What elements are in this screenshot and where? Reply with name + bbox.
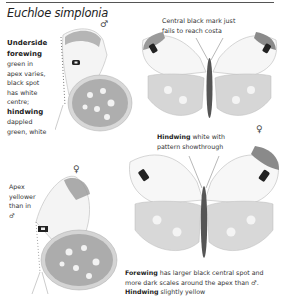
caption-line: green in	[7, 59, 59, 69]
caption-line: apex varies,	[7, 69, 59, 79]
male-upperside-butterfly-illustration	[138, 28, 281, 128]
female-underside-butterfly-illustration	[14, 172, 124, 297]
caption-bold: forewing	[7, 50, 42, 58]
caption-line: green, white	[7, 127, 59, 137]
caption-line: slightly yellow	[158, 288, 205, 295]
caption-line: dappled	[7, 117, 59, 127]
header-rule	[6, 2, 274, 3]
caption-bold: Underside	[7, 39, 47, 47]
caption-bold: Hindwing	[157, 133, 190, 140]
caption-bold: Forewing	[125, 269, 158, 276]
caption-underside: Underside forewing green in apex varies,…	[7, 38, 59, 136]
female-upperside-butterfly-illustration	[127, 142, 281, 266]
male-underside-butterfly-illustration	[55, 25, 135, 140]
caption-line: black spot	[7, 78, 59, 88]
caption-line: Central black mark just	[162, 16, 235, 26]
caption-line: has white	[7, 88, 59, 98]
caption-bold: Hindwing	[125, 288, 158, 295]
caption-line: centre;	[7, 97, 59, 107]
caption-female-forewing: Forewing has larger black central spot a…	[125, 268, 281, 297]
caption-bold: hindwing	[7, 108, 43, 116]
caption-line: more dark scales around the apex than ♂.	[125, 278, 281, 288]
caption-line: has larger black central spot and	[158, 269, 264, 276]
caption-line: white with	[190, 133, 225, 140]
species-title: Euchloe simplonia	[7, 6, 108, 20]
